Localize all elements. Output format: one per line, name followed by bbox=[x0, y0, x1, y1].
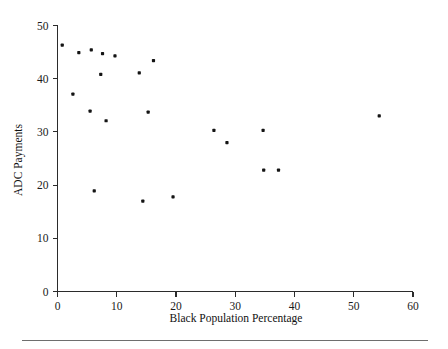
data-point bbox=[261, 129, 264, 132]
scatter-plot-figure: 0102030405060 01020304050 Black Populati… bbox=[0, 0, 448, 349]
y-axis-ticks: 01020304050 bbox=[37, 20, 58, 298]
x-tick-label: 0 bbox=[55, 300, 61, 312]
data-point bbox=[99, 73, 102, 76]
data-point bbox=[262, 169, 265, 172]
data-point bbox=[71, 93, 74, 96]
data-point bbox=[113, 54, 116, 57]
y-tick-label: 20 bbox=[37, 179, 49, 191]
y-tick-label: 0 bbox=[43, 286, 49, 298]
data-point bbox=[90, 48, 93, 51]
x-axis-ticks: 0102030405060 bbox=[55, 292, 419, 312]
data-point bbox=[61, 44, 64, 47]
data-point bbox=[101, 52, 104, 55]
data-point bbox=[88, 110, 91, 113]
data-point bbox=[277, 169, 280, 172]
data-point bbox=[212, 129, 215, 132]
data-point bbox=[171, 195, 174, 198]
x-tick-label: 10 bbox=[111, 300, 123, 312]
data-point bbox=[77, 51, 80, 54]
x-axis-title: Black Population Percentage bbox=[170, 312, 303, 325]
data-point bbox=[152, 59, 155, 62]
x-tick-label: 40 bbox=[289, 300, 301, 312]
data-points-layer bbox=[61, 44, 381, 203]
y-tick-label: 10 bbox=[37, 232, 49, 244]
data-point bbox=[378, 114, 381, 117]
x-tick-label: 60 bbox=[407, 300, 419, 312]
x-tick-label: 50 bbox=[348, 300, 360, 312]
x-tick-label: 20 bbox=[170, 300, 182, 312]
axes-group bbox=[58, 26, 414, 292]
data-point bbox=[147, 111, 150, 114]
chart-canvas: 0102030405060 01020304050 Black Populati… bbox=[0, 0, 448, 349]
data-point bbox=[225, 141, 228, 144]
data-point bbox=[141, 199, 144, 202]
y-tick-label: 50 bbox=[37, 20, 49, 32]
data-point bbox=[104, 119, 107, 122]
y-tick-label: 30 bbox=[37, 126, 49, 138]
data-point bbox=[93, 189, 96, 192]
y-axis-title: ADC Payments bbox=[12, 124, 25, 196]
y-tick-label: 40 bbox=[37, 73, 49, 85]
x-tick-label: 30 bbox=[230, 300, 242, 312]
data-point bbox=[138, 71, 141, 74]
